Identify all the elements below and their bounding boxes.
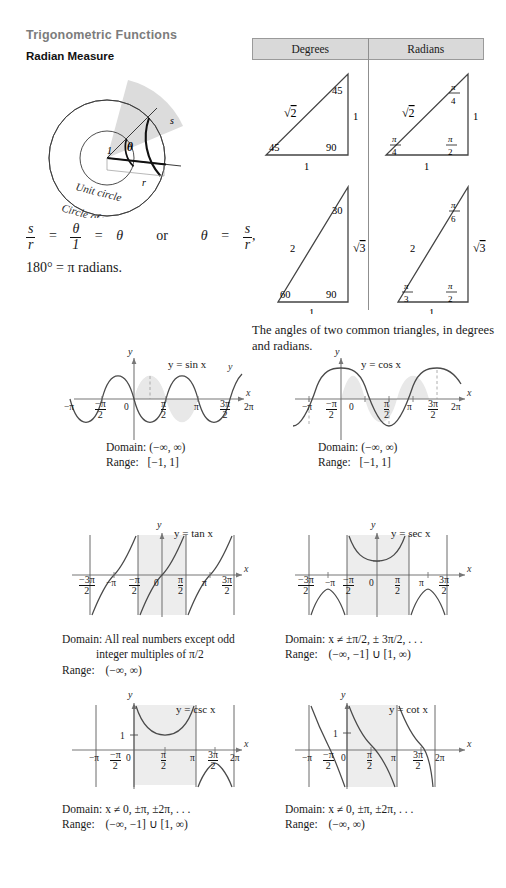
triangles-grid: √2 1 1 45 45 90 √2 1 1 π 4 π <box>252 62 492 312</box>
fraction-theta-over-one: θ 1 <box>70 222 81 252</box>
tri3-hyp-label: 2 <box>290 243 295 254</box>
sin-xticks: −π −π2 0 π2 π 3π2 2π <box>62 400 252 426</box>
trig-reference-page: Trigonometric Functions Radian Measure <box>0 0 506 888</box>
cos-range-value: [−1, 1] <box>359 456 390 468</box>
tri1-angle-right: 90 <box>326 142 337 153</box>
svg-text:2: 2 <box>448 294 453 304</box>
sin-axis-y-label: y <box>227 361 233 372</box>
tan-xticks: −3π2 −π −π2 0 π2 π 3π2 <box>62 576 252 602</box>
unit-circle-label-s: s <box>170 115 174 126</box>
triangles-caption: The angles of two common triangles, in d… <box>252 322 494 354</box>
unit-circle-figure: s θ 1 r Unit circle Circle of radius r <box>45 66 215 216</box>
svg-text:π: π <box>392 134 397 144</box>
unit-circle-outer-label: Circle of radius r <box>60 201 137 218</box>
radian-formula-block: s r = θ 1 = θ or θ = s r , 180° = π radi… <box>26 222 241 284</box>
tri4-angle-right: π 2 <box>446 281 457 304</box>
graph-tan: x y = tan x y −3π2 −π −π2 0 π2 π 3π2 <box>62 525 252 625</box>
tri2-base-label: 1 <box>424 161 429 172</box>
table-header-radians: Radians <box>369 38 485 60</box>
svg-text:6: 6 <box>451 214 456 224</box>
tan-y-axis-caption: y <box>157 519 161 530</box>
csc-y-axis-caption: y <box>128 689 132 700</box>
cot-domain-label: Domain: <box>285 803 325 815</box>
cos-domain-value: (−∞, ∞) <box>361 441 397 453</box>
sec-domain-value: x ≠ ±π/2, ± 3π/2, . . . <box>328 633 422 645</box>
csc-xticks: −π −π2 0 π2 π 3π2 2π <box>62 751 252 777</box>
sec-range-value: (−∞, −1] ∪ [1, ∞) <box>328 648 410 660</box>
cos-axis-x-label: x <box>466 387 472 398</box>
tan-domain-value-2: integer multiples of π/2 <box>96 648 204 660</box>
tri3-base-label: 1 <box>309 307 314 314</box>
triangle-rad-30-60-90: 2 √3 1 π 6 π 3 π 2 <box>398 187 486 314</box>
csc-title: y = csc x <box>176 703 216 715</box>
sin-domain-value: (−∞, ∞) <box>149 441 185 453</box>
triangle-deg-45-45-90: √2 1 1 45 45 90 <box>266 74 358 172</box>
tan-range-value: (−∞, ∞) <box>105 664 141 676</box>
tri3-angle-right: 90 <box>326 289 337 300</box>
csc-domain-value: x ≠ 0, ±π, ±2π, . . . <box>105 803 190 815</box>
csc-range-value: (−∞, −1] ∪ [1, ∞) <box>105 818 187 830</box>
csc-domain-range: Domain: x ≠ 0, ±π, ±2π, . . . Range: (−∞… <box>62 802 190 833</box>
tri1-vertical-label: 1 <box>353 111 358 122</box>
csc-domain-label: Domain: <box>62 803 102 815</box>
cot-xticks: −π −π2 0 π2 π 3π2 2π <box>285 751 475 777</box>
tan-range-label: Range: <box>62 664 95 676</box>
tri1-angle-top: 45 <box>332 85 343 96</box>
cos-y-axis-caption: y <box>335 346 339 357</box>
sec-xticks: −3π2 −π −π2 0 π2 π 3π2 <box>285 576 475 602</box>
cos-domain-range: Domain: (−∞, ∞) Range: [−1, 1] <box>318 440 397 471</box>
formula-rhs-theta: θ <box>201 228 208 243</box>
graph-cos: x y = cos x y −π −π2 0 π2 π 3π2 2π <box>285 352 475 447</box>
graph-cot: 1 x y = cot x y −π −π2 0 π2 π 3π2 2π <box>285 695 475 795</box>
tan-title: y = tan x <box>174 527 213 539</box>
cot-range-label: Range: <box>285 818 318 830</box>
page-title: Trigonometric Functions <box>26 28 177 42</box>
sin-title: y = sin x <box>168 358 207 370</box>
sin-y-axis-caption: y <box>128 346 132 357</box>
tri4-vertical-label: √3 <box>473 241 486 255</box>
svg-text:π: π <box>448 134 453 144</box>
tan-domain-label: Domain: <box>62 633 102 645</box>
fraction-s-over-r: s r <box>26 222 35 252</box>
sin-axis-x-label: x <box>245 387 251 398</box>
sec-title: y = sec x <box>391 527 431 539</box>
tri2-angle-top: π 4 <box>449 82 460 106</box>
sin-domain-range: Domain: (−∞, ∞) Range: [−1, 1] <box>106 440 185 471</box>
formula-conjunction: or <box>156 228 168 243</box>
cot-ytick-label: 1 <box>333 729 338 739</box>
tan-axis-x-label: x <box>243 563 249 574</box>
formula-line-2: 180° = π radians. <box>26 260 241 276</box>
tri3-vertical-label: √3 <box>353 241 366 255</box>
cot-axis-x-label: x <box>466 738 472 749</box>
formula-line-1: s r = θ 1 = θ or θ = s r , <box>26 222 241 252</box>
tri2-angle-right: π 2 <box>446 134 457 157</box>
svg-text:2: 2 <box>448 147 453 157</box>
tri1-base-label: 1 <box>304 161 309 172</box>
csc-ytick-label: 1 <box>120 731 125 741</box>
svg-text:3: 3 <box>404 294 409 304</box>
svg-text:4: 4 <box>451 96 456 106</box>
tri3-angle-top: 30 <box>332 205 343 216</box>
cos-range-label: Range: <box>318 456 351 468</box>
tri3-angle-left: 60 <box>280 289 291 300</box>
tri1-hyp-label: √2 <box>284 106 297 120</box>
svg-text:π: π <box>448 281 453 291</box>
svg-text:π: π <box>451 200 456 210</box>
graph-csc: 1 x y = csc x y −π −π2 0 π2 π 3π2 2π <box>62 695 252 795</box>
triangle-rad-45-45-90: √2 1 1 π 4 π 4 π 2 <box>386 74 478 172</box>
cot-title: y = cot x <box>389 703 428 715</box>
unit-circle-label-theta: θ <box>127 141 133 153</box>
cot-range-value: (−∞, ∞) <box>328 818 364 830</box>
unit-circle-label-r: r <box>142 177 146 188</box>
cos-title: y = cos x <box>361 358 402 370</box>
csc-axis-x-label: x <box>243 738 249 749</box>
svg-text:4: 4 <box>392 147 397 157</box>
graph-sin: y x y = sin x y −π −π2 0 π2 π 3π2 2π <box>62 352 252 447</box>
formula-result-theta: θ <box>116 228 123 243</box>
svg-text:π: π <box>404 281 409 291</box>
tri2-vertical-label: 1 <box>473 111 478 122</box>
table-header-degrees: Degrees <box>252 38 369 60</box>
sec-y-axis-caption: y <box>371 519 375 530</box>
tri4-hyp-label: 2 <box>410 243 415 254</box>
cot-domain-value: x ≠ 0, ±π, ±2π, . . . <box>328 803 413 815</box>
